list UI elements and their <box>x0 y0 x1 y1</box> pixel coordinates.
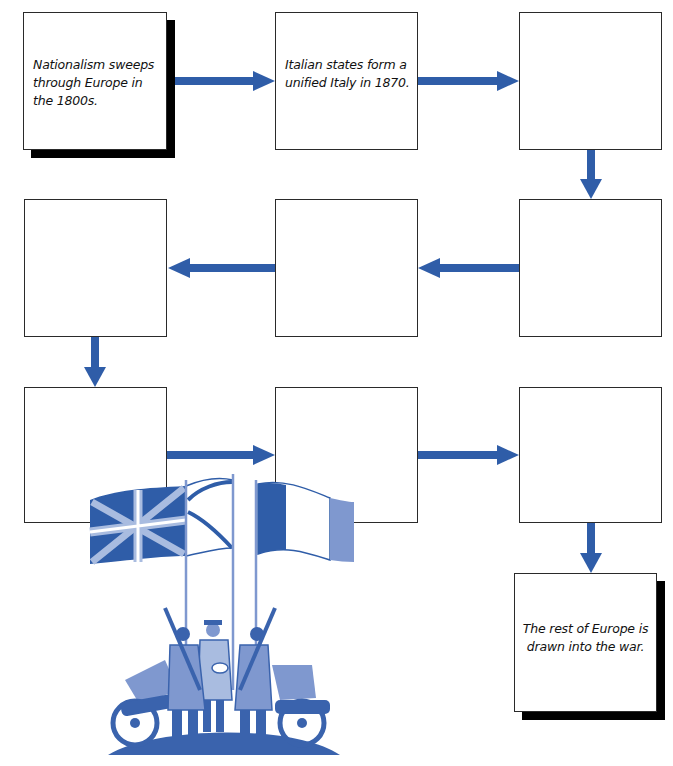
arrow-left-icon <box>168 258 275 278</box>
soldiers-icon <box>165 608 275 738</box>
flow-box-text: The rest of Europe is drawn into the war… <box>521 620 650 656</box>
arrow-right-icon <box>418 445 519 465</box>
flow-box-8[interactable] <box>275 387 418 523</box>
flow-box-2[interactable]: Italian states form a unified Italy in 1… <box>275 12 418 150</box>
naval-ensign-flag-icon <box>186 478 233 556</box>
arrow-right-icon <box>418 71 519 91</box>
flow-box-10: The rest of Europe is drawn into the war… <box>514 573 657 712</box>
flow-box-9[interactable] <box>519 387 662 523</box>
cannon-icon <box>272 665 330 745</box>
arrow-down-icon <box>580 523 602 573</box>
flow-box-5[interactable] <box>275 199 418 337</box>
arrow-right-icon <box>175 71 275 91</box>
flow-box-text: Italian states form a unified Italy in 1… <box>285 56 411 92</box>
flow-box-1: Nationalism sweeps through Europe in the… <box>23 12 167 150</box>
arrow-right-icon <box>167 445 275 465</box>
flow-box-3[interactable] <box>519 12 662 150</box>
arrow-left-icon <box>418 258 519 278</box>
cannon-icon <box>113 660 178 745</box>
arrow-down-icon <box>580 149 602 199</box>
flow-box-text: Nationalism sweeps through Europe in the… <box>33 56 160 110</box>
flow-box-6[interactable] <box>24 199 167 337</box>
hill-icon <box>108 732 340 755</box>
flow-box-4[interactable] <box>519 199 662 337</box>
flow-box-7[interactable] <box>24 387 167 523</box>
flag-poles <box>186 474 256 690</box>
arrow-down-icon <box>84 337 106 387</box>
